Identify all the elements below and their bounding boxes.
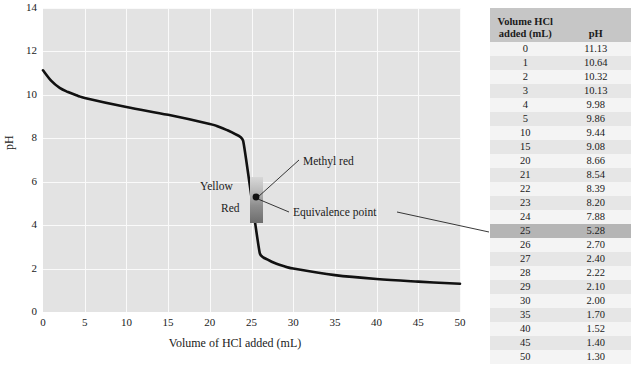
table-row: 247.88 — [490, 210, 631, 224]
column-header-volume-line1: Volume HCl — [498, 16, 553, 27]
cell-ph: 2.00 — [561, 294, 632, 308]
cell-volume: 40 — [490, 322, 561, 336]
y-axis-tick-label: 6 — [0, 176, 37, 187]
table-row: 210.32 — [490, 70, 631, 84]
table-row: 302.00 — [490, 294, 631, 308]
y-axis-tick-label: 2 — [0, 263, 37, 274]
table-row: 272.40 — [490, 252, 631, 266]
table-header-row: Volume HCl added (mL) pH — [490, 14, 631, 42]
titration-curve-figure: 02468101214 pH 05101520253035404550 Volu… — [0, 0, 470, 371]
cell-ph: 10.32 — [561, 70, 632, 84]
cell-volume: 25 — [490, 224, 561, 238]
x-axis-tick-label: 15 — [153, 316, 183, 328]
gridline-vertical — [460, 8, 461, 312]
cell-ph: 2.10 — [561, 280, 632, 294]
cell-volume: 24 — [490, 210, 561, 224]
cell-volume: 27 — [490, 252, 561, 266]
x-axis-tick-label: 50 — [445, 316, 475, 328]
cell-volume: 0 — [490, 42, 561, 56]
y-axis-tick-label: 14 — [0, 2, 37, 13]
table-row: 208.66 — [490, 154, 631, 168]
x-axis-tick-label: 35 — [320, 316, 350, 328]
plot-area — [43, 8, 460, 312]
column-header-volume-line2: added (mL) — [499, 28, 552, 39]
table-row: 255.28 — [490, 224, 631, 238]
table-row: 501.30 — [490, 350, 631, 364]
cell-volume: 15 — [490, 140, 561, 154]
y-axis-title: pH — [2, 135, 17, 150]
annotation-methyl-red: Methyl red — [303, 155, 354, 167]
cell-ph: 9.08 — [561, 140, 632, 154]
cell-ph: 8.66 — [561, 154, 632, 168]
x-axis-tick-label: 25 — [237, 316, 267, 328]
x-axis-title: Volume of HCl added (mL) — [0, 336, 470, 351]
cell-ph: 9.98 — [561, 98, 632, 112]
cell-ph: 11.13 — [561, 42, 632, 56]
cell-ph: 7.88 — [561, 210, 632, 224]
table-body: 011.13110.64210.32310.1349.9859.86109.44… — [490, 42, 631, 364]
x-axis-tick-label: 30 — [278, 316, 308, 328]
cell-ph: 2.40 — [561, 252, 632, 266]
table-row: 310.13 — [490, 84, 631, 98]
y-axis-tick-label: 10 — [0, 89, 37, 100]
cell-volume: 23 — [490, 196, 561, 210]
table-row: 49.98 — [490, 98, 631, 112]
cell-volume: 3 — [490, 84, 561, 98]
cell-ph: 8.54 — [561, 168, 632, 182]
cell-ph: 2.70 — [561, 238, 632, 252]
cell-ph: 8.39 — [561, 182, 632, 196]
cell-volume: 29 — [490, 280, 561, 294]
cell-ph: 1.40 — [561, 336, 632, 350]
table-row: 262.70 — [490, 238, 631, 252]
cell-volume: 26 — [490, 238, 561, 252]
y-axis-tick-label: 12 — [0, 45, 37, 56]
table-row: 238.20 — [490, 196, 631, 210]
column-header-volume: Volume HCl added (mL) — [490, 14, 561, 42]
cell-volume: 10 — [490, 126, 561, 140]
table-row: 218.54 — [490, 168, 631, 182]
cell-ph: 10.64 — [561, 56, 632, 70]
cell-volume: 30 — [490, 294, 561, 308]
x-axis-tick-label: 40 — [362, 316, 392, 328]
cell-volume: 1 — [490, 56, 561, 70]
methyl-red-indicator-band — [250, 177, 263, 223]
cell-volume: 45 — [490, 336, 561, 350]
cell-ph: 5.28 — [561, 224, 632, 238]
x-axis-tick-label: 20 — [195, 316, 225, 328]
table-row: 228.39 — [490, 182, 631, 196]
column-header-ph: pH — [561, 14, 632, 42]
annotation-equivalence-point: Equivalence point — [293, 206, 376, 218]
table-row: 451.40 — [490, 336, 631, 350]
cell-volume: 2 — [490, 70, 561, 84]
table-row: 110.64 — [490, 56, 631, 70]
x-axis-tick-label: 0 — [28, 316, 58, 328]
table-row: 351.70 — [490, 308, 631, 322]
cell-volume: 50 — [490, 350, 561, 364]
cell-volume: 5 — [490, 112, 561, 126]
x-axis-tick-label: 10 — [111, 316, 141, 328]
annotation-yellow: Yellow — [200, 180, 233, 192]
table-row: 011.13 — [490, 42, 631, 56]
cell-ph: 9.86 — [561, 112, 632, 126]
cell-volume: 35 — [490, 308, 561, 322]
cell-ph: 10.13 — [561, 84, 632, 98]
cell-ph: 1.70 — [561, 308, 632, 322]
cell-volume: 21 — [490, 168, 561, 182]
cell-ph: 8.20 — [561, 196, 632, 210]
x-axis-ticks: 05101520253035404550 — [0, 316, 470, 332]
table-row: 159.08 — [490, 140, 631, 154]
cell-ph: 1.30 — [561, 350, 632, 364]
annotation-red: Red — [221, 202, 240, 214]
table-row: 59.86 — [490, 112, 631, 126]
y-axis-tick-label: 4 — [0, 219, 37, 230]
ph-data-table: Volume HCl added (mL) pH 011.13110.64210… — [490, 8, 631, 364]
cell-volume: 20 — [490, 154, 561, 168]
table-row: 401.52 — [490, 322, 631, 336]
titration-curve — [43, 8, 460, 312]
cell-volume: 4 — [490, 98, 561, 112]
table-row: 282.22 — [490, 266, 631, 280]
cell-volume: 28 — [490, 266, 561, 280]
cell-volume: 22 — [490, 182, 561, 196]
cell-ph: 1.52 — [561, 322, 632, 336]
table-row: 109.44 — [490, 126, 631, 140]
